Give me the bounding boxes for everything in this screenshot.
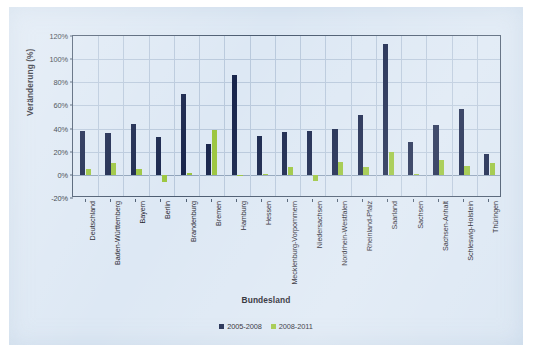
bar-group [325, 36, 350, 196]
y-tick-label: 120% [49, 32, 68, 41]
y-tick-label: -20% [51, 194, 68, 203]
bar [332, 129, 337, 175]
x-tick-mark [337, 199, 338, 202]
bar [187, 173, 192, 175]
bar-group [149, 36, 174, 196]
bar [313, 175, 318, 181]
x-tick-label: Bayern [138, 201, 147, 223]
bar [136, 169, 141, 175]
bar [86, 169, 91, 175]
bar [131, 124, 136, 175]
bar [212, 130, 217, 175]
x-tick-label: Deutschland [88, 201, 97, 240]
bar-group [426, 36, 451, 196]
bar-group [123, 36, 148, 196]
bar [358, 115, 363, 175]
y-tick-label: 40% [54, 124, 69, 133]
legend-swatch [219, 324, 224, 329]
bar [181, 94, 186, 175]
bar [111, 163, 116, 175]
x-tick-mark [413, 199, 414, 202]
x-tick-label: Berlin [163, 201, 172, 219]
bar-group [199, 36, 224, 196]
bar [206, 144, 211, 175]
bar [156, 137, 161, 175]
bar [80, 131, 85, 175]
x-axis-title: Bundesland [9, 295, 523, 305]
bar-group [224, 36, 249, 196]
bar [162, 175, 167, 182]
bar [433, 125, 438, 175]
bar-group [250, 36, 275, 196]
legend-label: 2005-2008 [227, 322, 261, 331]
legend-item: 2005-2008 [219, 322, 261, 331]
bar [237, 175, 242, 176]
bar [288, 167, 293, 175]
chart-page: Veränderung (%) 120%100%80%60%40%20%0%-2… [0, 0, 537, 355]
legend-label: 2008-2011 [279, 322, 313, 331]
x-tick-label: Rheinland-Pfalz [365, 201, 374, 251]
bar-group [275, 36, 300, 196]
x-tick-mark [211, 199, 212, 202]
x-tick-mark [463, 199, 464, 202]
bar [408, 142, 413, 174]
legend-swatch [271, 324, 276, 329]
legend-item: 2008-2011 [271, 322, 313, 331]
bar-group [73, 36, 98, 196]
bar [383, 44, 388, 175]
bar [105, 133, 110, 175]
x-tick-mark [287, 199, 288, 202]
x-tick-mark [312, 199, 313, 202]
bar [464, 166, 469, 175]
bar-group [351, 36, 376, 196]
bar-group [174, 36, 199, 196]
y-tick-label: 60% [54, 101, 69, 110]
x-tick-mark [135, 199, 136, 202]
y-axis-title: Veränderung (%) [25, 49, 35, 116]
x-tick-label: Mecklenburg-Vorpommern [290, 201, 299, 285]
bar-group [300, 36, 325, 196]
bar [414, 174, 419, 175]
bar-group [452, 36, 477, 196]
x-tick-mark [186, 199, 187, 202]
x-tick-mark [387, 199, 388, 202]
bar-group [98, 36, 123, 196]
bar [257, 136, 262, 175]
bar [232, 75, 237, 175]
x-tick-label: Sachsen [416, 201, 425, 229]
bar [490, 163, 495, 175]
bar [459, 109, 464, 175]
bar [263, 174, 268, 175]
bar-group [376, 36, 401, 196]
x-tick-mark [160, 199, 161, 202]
chart-legend: 2005-20082008-2011 [9, 322, 523, 331]
x-tick-label: Baden-Württemberg [113, 201, 122, 265]
x-tick-mark [85, 199, 86, 202]
bar [389, 152, 394, 175]
x-axis-tick-labels: DeutschlandBaden-WürttembergBayernBerlin… [72, 199, 501, 291]
bar-group [401, 36, 426, 196]
x-tick-label: Nordrhein-Westfalen [340, 201, 349, 266]
x-tick-mark [236, 199, 237, 202]
bar [439, 160, 444, 175]
bar [484, 154, 489, 175]
x-tick-label: Schleswig-Holstein [466, 201, 475, 261]
x-tick-label: Hamburg [239, 201, 248, 230]
x-tick-label: Brandenburg [189, 201, 198, 242]
x-tick-mark [362, 199, 363, 202]
plot-area: 120%100%80%60%40%20%0%-20% [72, 35, 501, 197]
bar [282, 132, 287, 175]
bar-group [477, 36, 502, 196]
x-tick-label: Sachsen-Anhalt [441, 201, 450, 251]
scanned-page-panel: Veränderung (%) 120%100%80%60%40%20%0%-2… [9, 7, 523, 345]
y-tick-label: 20% [54, 147, 69, 156]
x-tick-label: Saarland [390, 201, 399, 229]
x-tick-mark [488, 199, 489, 202]
y-tick-label: 0% [58, 170, 68, 179]
y-tick-label: 100% [49, 55, 68, 64]
y-tick-label: 80% [54, 78, 69, 87]
x-tick-mark [110, 199, 111, 202]
bar [307, 131, 312, 175]
bar [338, 162, 343, 175]
x-tick-label: Hessen [264, 201, 273, 225]
